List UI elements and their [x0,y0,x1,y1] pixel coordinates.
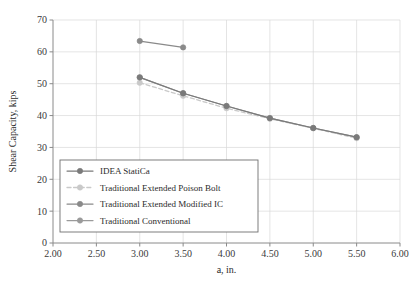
data-point [224,103,229,108]
y-axis-title: Shear Capacity, kips [7,90,18,172]
x-tick-label: 3.00 [131,248,149,259]
x-axis-title: a, in. [217,264,237,275]
series-line [140,77,357,137]
x-tick-label: 5.50 [348,248,366,259]
y-tick-label: 30 [37,142,47,153]
y-tick-label: 40 [37,110,47,121]
x-tick-label: 4.00 [218,248,236,259]
y-tick-label: 60 [37,46,47,57]
x-tick-label: 2.50 [88,248,106,259]
series-2 [137,38,186,50]
data-point [137,75,142,80]
legend-label: Traditional Extended Modified IC [100,199,223,209]
legend-label: Traditional Conventional [100,216,191,226]
x-tick-label: 6.00 [391,248,409,259]
chart-plot-area: 0102030405060702.002.503.003.504.004.505… [0,0,413,284]
data-point [137,38,142,43]
legend-label: Traditional Extended Poison Bolt [100,183,221,193]
data-point [354,135,359,140]
data-point [311,125,316,130]
x-tick-label: 3.50 [174,248,192,259]
chart-figure: 0102030405060702.002.503.003.504.004.505… [0,0,413,284]
y-tick-label: 70 [37,14,47,25]
data-point [137,80,142,85]
data-point [180,91,185,96]
legend-label: IDEA StatiCa [100,166,150,176]
legend-marker-icon [77,168,82,173]
series-0 [137,75,359,140]
legend-marker-icon [77,185,82,190]
data-point [267,115,272,120]
y-tick-label: 20 [37,174,47,185]
legend-marker-icon [77,218,82,223]
x-tick-label: 2.00 [44,248,62,259]
series-line [140,41,183,47]
series-line [140,77,357,137]
data-point [180,45,185,50]
x-tick-label: 4.50 [261,248,279,259]
y-tick-label: 50 [37,78,47,89]
legend-marker-icon [77,201,82,206]
x-tick-label: 5.00 [305,248,323,259]
y-tick-label: 10 [37,206,47,217]
